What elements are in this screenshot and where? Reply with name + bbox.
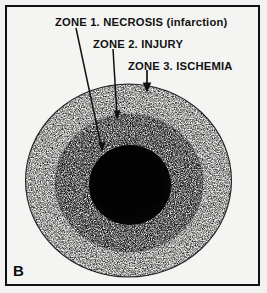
zone-3-label: ZONE 3. ISCHEMIA	[128, 60, 233, 72]
zone-2-label: ZONE 2. INJURY	[93, 38, 183, 50]
panel-letter-b: B	[13, 262, 24, 279]
zone-1-label: ZONE 1. NECROSIS (infarction)	[55, 16, 227, 28]
figure-panel: ZONE 1. NECROSIS (infarction) ZONE 2. IN…	[0, 0, 267, 293]
